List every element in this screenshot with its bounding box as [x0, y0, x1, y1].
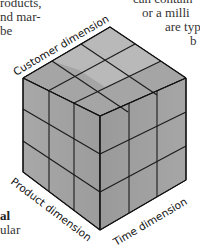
data-cube-diagram: Customer dimension Product dimension Tim… [0, 0, 200, 252]
